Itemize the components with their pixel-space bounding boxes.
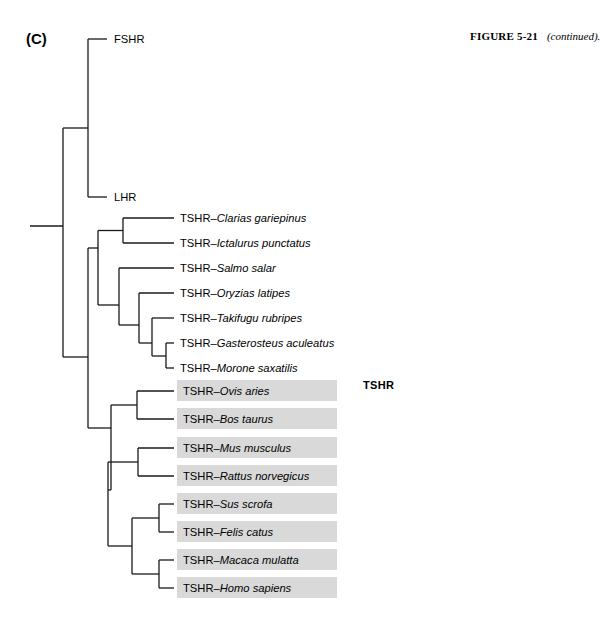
leaf-label-prefix: TSHR– <box>183 385 220 397</box>
leaf-label-species: Rattus norvegicus <box>220 470 310 482</box>
leaf-label: TSHR–Ictalurus punctatus <box>180 237 311 249</box>
leaf-label: TSHR–Mus musculus <box>183 442 291 454</box>
leaf-label-prefix: TSHR– <box>180 237 217 249</box>
leaf-label-species: Bos taurus <box>220 413 273 425</box>
leaf-label-prefix: TSHR– <box>183 554 220 566</box>
leaf-label: FSHR <box>114 33 144 45</box>
leaf-label-prefix: TSHR– <box>180 262 217 274</box>
leaf-label-prefix: TSHR– <box>183 498 220 510</box>
leaf-label: TSHR–Sus scrofa <box>183 498 273 510</box>
leaf-label: TSHR–Homo sapiens <box>183 582 291 594</box>
leaf-label-species: Oryzias latipes <box>217 287 290 299</box>
leaf-label-species: Clarias gariepinus <box>217 212 307 224</box>
leaf-label-prefix: TSHR– <box>180 287 217 299</box>
leaf-label-prefix: TSHR– <box>180 337 217 349</box>
leaf-label: TSHR–Takifugu rubripes <box>180 312 302 324</box>
leaf-label-species: Sus scrofa <box>220 498 273 510</box>
leaf-label-prefix: TSHR– <box>180 212 217 224</box>
leaf-label: TSHR–Ovis aries <box>183 385 269 397</box>
leaf-label-prefix: TSHR– <box>183 442 220 454</box>
leaf-label-prefix: TSHR– <box>180 312 217 324</box>
leaf-label: LHR <box>114 191 136 203</box>
leaf-label-species: Ictalurus punctatus <box>217 237 311 249</box>
leaf-label-prefix: TSHR– <box>183 582 220 594</box>
leaf-label: TSHR–Bos taurus <box>183 413 273 425</box>
leaf-label: TSHR–Rattus norvegicus <box>183 470 309 482</box>
leaf-label-species: Morone saxatilis <box>217 362 298 374</box>
leaf-label: TSHR–Felis catus <box>183 526 273 538</box>
leaf-label-species: Homo sapiens <box>220 582 292 594</box>
leaf-label-species: Gasterosteus aculeatus <box>217 337 335 349</box>
clade-label-tshr: TSHR <box>363 379 394 391</box>
leaf-label: TSHR–Oryzias latipes <box>180 287 290 299</box>
leaf-label-species: Ovis aries <box>220 385 270 397</box>
leaf-label-species: Salmo salar <box>217 262 276 274</box>
tree-branches-group <box>30 39 174 588</box>
leaf-label-species: Macaca mulatta <box>220 554 299 566</box>
leaf-label: TSHR–Morone saxatilis <box>180 362 298 374</box>
leaf-label-prefix: TSHR– <box>183 470 220 482</box>
leaf-label-species: Mus musculus <box>220 442 292 454</box>
leaf-label: TSHR–Gasterosteus aculeatus <box>180 337 334 349</box>
leaf-label-species: Takifugu rubripes <box>217 312 302 324</box>
leaf-label-species: Felis catus <box>220 526 273 538</box>
leaf-label: TSHR–Clarias gariepinus <box>180 212 306 224</box>
leaf-label-prefix: TSHR– <box>183 526 220 538</box>
leaf-label-prefix: TSHR– <box>180 362 217 374</box>
leaf-label: TSHR–Macaca mulatta <box>183 554 299 566</box>
leaf-label-prefix: TSHR– <box>183 413 220 425</box>
leaf-label: TSHR–Salmo salar <box>180 262 276 274</box>
